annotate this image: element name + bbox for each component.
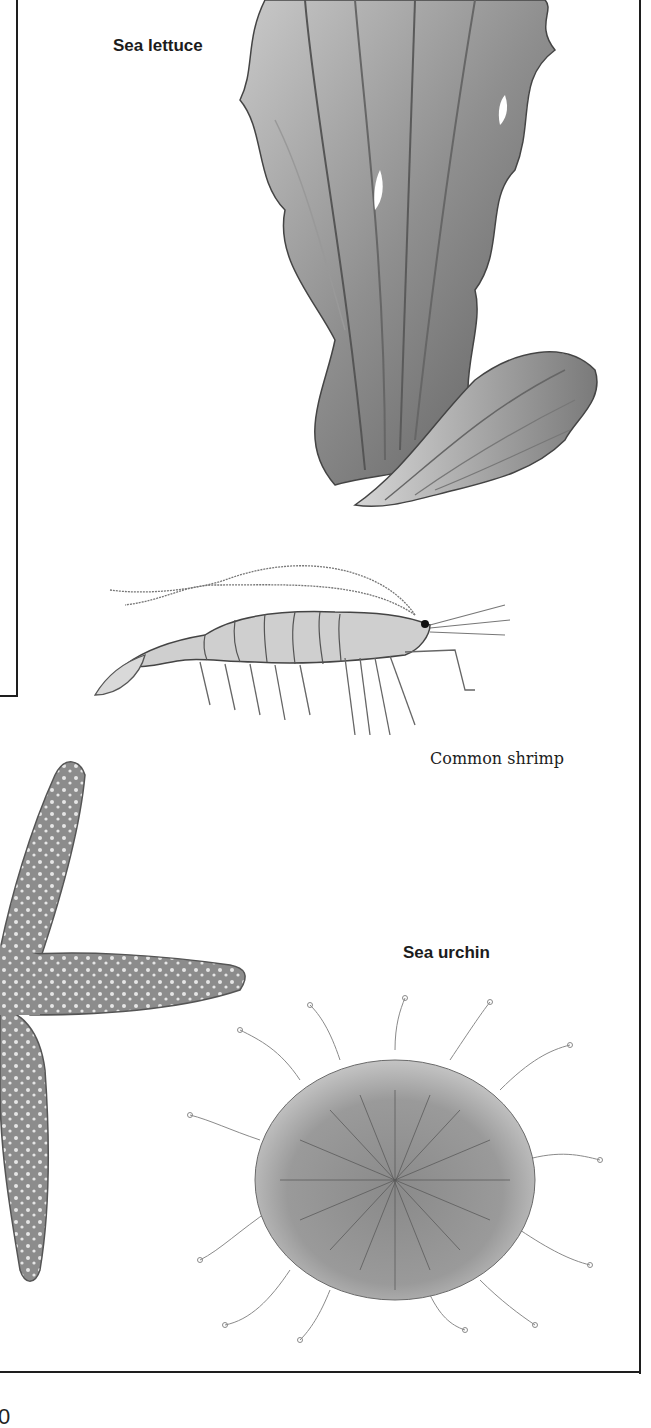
page-number: 0 [0,1404,10,1428]
sea-urchin-illustration [180,990,610,1350]
common-shrimp-illustration [85,540,515,740]
figure-frame-right-border [639,0,641,1374]
inset-box-bottom-border [0,695,18,697]
sea-lettuce-illustration [235,0,615,515]
sea-urchin-label: Sea urchin [403,943,490,963]
sea-lettuce-label: Sea lettuce [113,36,203,56]
inset-box-right-border [16,0,18,697]
figure-frame-bottom-border [0,1371,641,1373]
common-shrimp-label: Common shrimp [430,749,564,768]
